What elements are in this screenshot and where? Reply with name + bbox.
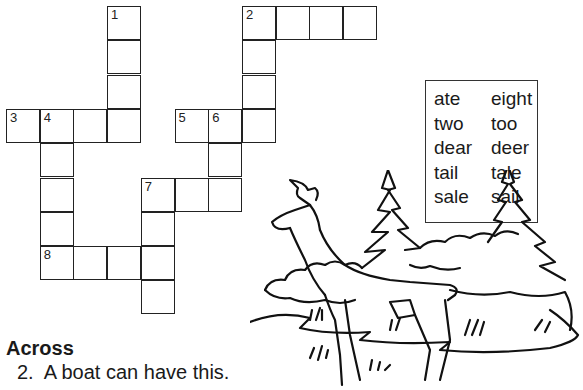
crossword-cell[interactable] [40,143,74,177]
deer-head [272,205,320,230]
word: ate [434,87,472,112]
crossword-cell[interactable] [242,109,276,143]
deer-forest-illustration [250,170,583,390]
crossword-cell[interactable] [107,109,141,143]
crossword-cell[interactable]: 2 [242,6,276,40]
crossword-cell[interactable]: 1 [107,6,141,40]
clue-number-label: 2 [246,8,253,22]
crossword-cell[interactable]: 3 [6,109,40,143]
word: too [491,112,532,137]
crossword-cell[interactable] [208,178,242,212]
deer-hind-leg-1 [415,315,430,380]
ground-line [250,310,578,352]
deer-belly-patch [390,300,415,318]
word: dear [434,136,472,161]
crossword-cell[interactable] [141,246,175,280]
clue-number: 2. [17,361,34,383]
clue-number-label: 8 [44,248,51,262]
across-clue-2: 2. A boat can have this. [17,360,229,384]
crossword-cell[interactable] [141,280,175,314]
deer-front-leg-2 [345,300,360,380]
crossword-cell[interactable]: 5 [175,109,209,143]
crossword-cell[interactable] [242,75,276,109]
word: eight [491,87,532,112]
crossword-cell[interactable] [242,40,276,74]
crossword-cell[interactable] [40,178,74,212]
crossword-cell[interactable] [107,40,141,74]
clue-number-label: 5 [179,111,186,125]
crossword-cell[interactable] [141,212,175,246]
deer-neck-front [290,228,325,295]
crossword-cell[interactable] [175,178,209,212]
crossword-cell[interactable] [309,6,343,40]
crossword-cell[interactable]: 7 [141,178,175,212]
crossword-cell[interactable] [343,6,377,40]
clue-number-label: 4 [44,111,51,125]
crossword-cell[interactable] [276,6,310,40]
clue-number-label: 1 [111,8,118,22]
crossword-cell[interactable]: 6 [208,109,242,143]
crossword-cell[interactable] [107,75,141,109]
word: two [434,112,472,137]
word: deer [491,136,532,161]
crossword-cell[interactable] [107,246,141,280]
clue-number-label: 7 [145,180,152,194]
crossword-cell[interactable] [73,246,107,280]
crossword-cell[interactable]: 8 [40,246,74,280]
crossword-cell[interactable] [40,212,74,246]
across-heading: Across [6,337,74,359]
clue-text: A boat can have this. [44,361,230,383]
deer-front-leg-1 [325,295,342,385]
crossword-cell[interactable] [73,109,107,143]
deer-ears [290,180,318,205]
clue-number-label: 3 [10,111,17,125]
clue-number-label: 6 [212,111,219,125]
crossword-cell[interactable] [208,143,242,177]
crossword-cell[interactable]: 4 [40,109,74,143]
deer-hind-leg-2 [440,300,450,380]
